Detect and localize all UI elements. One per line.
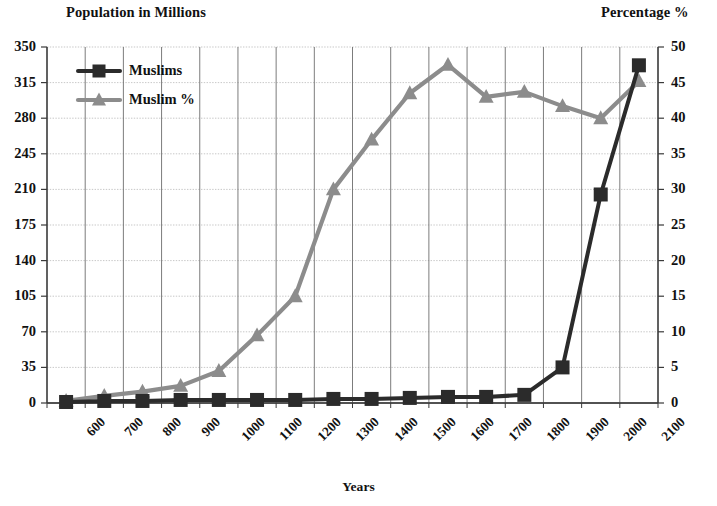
left-tick-0: 0: [0, 395, 36, 410]
left-tick-140: 140: [0, 253, 36, 268]
right-tick-35: 35: [671, 146, 686, 161]
left-tick-315: 315: [0, 75, 36, 90]
left-tick-210: 210: [0, 181, 36, 196]
right-tick-30: 30: [671, 181, 686, 196]
right-tick-20: 20: [671, 253, 686, 268]
left-tick-175: 175: [0, 217, 36, 232]
left-tick-245: 245: [0, 146, 36, 161]
left-tick-350: 350: [0, 39, 36, 54]
legend-item-muslims: Muslims: [129, 62, 182, 79]
right-tick-15: 15: [671, 288, 686, 303]
left-tick-280: 280: [0, 110, 36, 125]
legend-item-muslim-percent: Muslim %: [129, 91, 195, 108]
chart-container: Population in Millions Percentage % Year…: [0, 0, 717, 506]
right-tick-50: 50: [671, 39, 686, 54]
right-tick-0: 0: [671, 395, 678, 410]
right-tick-25: 25: [671, 217, 686, 232]
right-tick-10: 10: [671, 324, 686, 339]
right-tick-45: 45: [671, 75, 686, 90]
right-tick-40: 40: [671, 110, 686, 125]
left-tick-35: 35: [0, 359, 36, 374]
right-tick-5: 5: [671, 359, 678, 374]
left-tick-70: 70: [0, 324, 36, 339]
legend-markers: [78, 65, 120, 106]
left-tick-105: 105: [0, 288, 36, 303]
